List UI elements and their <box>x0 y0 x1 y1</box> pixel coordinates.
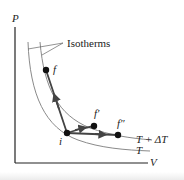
point-f <box>43 67 49 73</box>
label-i: i <box>59 135 62 147</box>
bottom-edge <box>0 172 184 180</box>
isotherms-label: Isotherms <box>67 37 110 49</box>
point-f-double-prime <box>115 132 121 138</box>
label-f: f <box>53 63 58 75</box>
label-t: T <box>136 144 143 156</box>
pv-diagram: P V Isotherms i f f′ f″ T + ΔT T <box>0 0 184 180</box>
process-paths <box>46 70 118 135</box>
v-axis-label: V <box>150 156 158 168</box>
p-axis-label: P <box>11 12 19 24</box>
label-f-double-prime: f″ <box>117 117 125 129</box>
point-f-prime <box>91 123 97 129</box>
point-i <box>64 130 70 136</box>
label-f-prime: f′ <box>94 107 100 119</box>
